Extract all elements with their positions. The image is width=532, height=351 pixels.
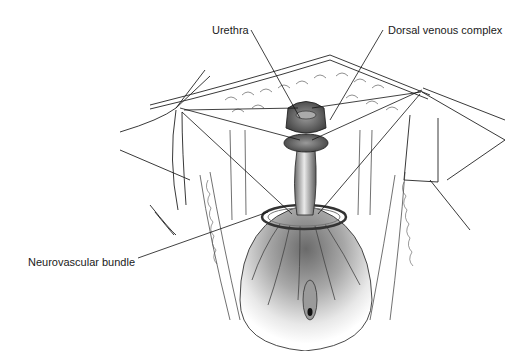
label-neurovascular-bundle: Neurovascular bundle: [28, 256, 135, 268]
dvc-leader: [330, 30, 383, 120]
urethra-tube: [295, 150, 317, 215]
urethral-stump-ring: [284, 134, 328, 152]
prostate-bladder-dome: [240, 205, 372, 351]
illustration-drawing: [0, 0, 532, 351]
leader-lines: [138, 30, 383, 258]
label-dorsal-venous-complex: Dorsal venous complex: [388, 24, 502, 36]
label-urethra: Urethra: [212, 24, 249, 36]
anatomical-illustration: Urethra Dorsal venous complex Neurovascu…: [0, 0, 532, 351]
